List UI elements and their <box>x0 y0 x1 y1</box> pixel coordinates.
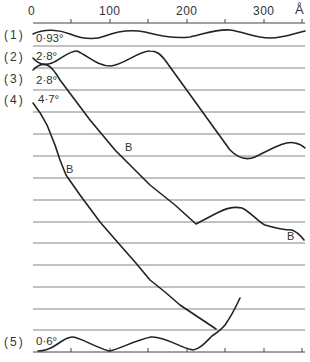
angle-label-5: 0·6° <box>36 335 57 347</box>
angle-label-3: 2·8° <box>36 74 57 86</box>
row-label-5: (5) <box>4 335 25 349</box>
top-axis <box>33 19 305 23</box>
curve-1 <box>33 30 305 39</box>
row-label-2: (2) <box>4 50 25 64</box>
angle-label-4: 4·7° <box>38 93 59 105</box>
x-tick-label-0: 0 <box>28 4 35 18</box>
angle-label-1: 0·93° <box>36 32 64 44</box>
bottom-axis <box>33 348 305 352</box>
b-marker-curve-4: B <box>66 163 73 175</box>
b-marker-curve-3: B <box>125 141 132 153</box>
x-tick-label-300: 300 <box>253 4 275 18</box>
b-marker-curve-3-end: B <box>287 230 294 242</box>
x-unit-label: Å <box>295 2 304 17</box>
row-label-4: (4) <box>4 93 25 107</box>
baseline-grid <box>33 46 305 330</box>
curve-2 <box>33 51 305 159</box>
row-label-1: (1) <box>4 28 25 42</box>
row-label-3: (3) <box>4 72 25 86</box>
angle-label-2: 2·8° <box>36 50 57 62</box>
curve-4 <box>33 103 216 329</box>
x-tick-label-100: 100 <box>99 4 121 18</box>
x-tick-label-200: 200 <box>176 4 198 18</box>
